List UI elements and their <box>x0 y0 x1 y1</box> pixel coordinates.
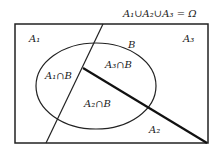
diagram-title: A₁∪A₂∪A₃ = Ω <box>123 8 196 19</box>
venn-diagram <box>0 0 221 152</box>
label-a3-intersect-b: A₃∩B <box>105 60 132 70</box>
label-a3: A₃ <box>183 34 194 44</box>
label-b: B <box>128 40 135 50</box>
label-a1: A₁ <box>29 34 40 44</box>
label-a2-intersect-b: A₂∩B <box>84 99 111 109</box>
label-a2: A₂ <box>149 125 160 135</box>
set-b-ellipse <box>36 43 156 129</box>
label-a1-intersect-b: A₁∩B <box>45 71 72 81</box>
partition-line-a1 <box>46 24 103 143</box>
